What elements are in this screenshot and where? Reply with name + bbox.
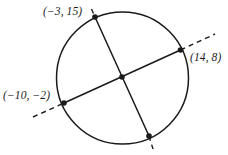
point-marker-bottom <box>146 133 152 139</box>
point-label-top-left: (−3, 15) <box>43 6 82 18</box>
circle-chords-figure: (−3, 15) (14, 8) (−10, −2) <box>0 0 228 155</box>
point-label-right: (14, 8) <box>190 52 221 64</box>
point-marker-top-left <box>92 14 98 20</box>
chord-left-to-right-dash-upper <box>181 34 216 50</box>
chord-left-to-right-dash-lower <box>33 103 64 117</box>
point-marker-left <box>61 100 67 106</box>
point-marker-right <box>178 47 184 53</box>
point-label-left: (−10, −2) <box>3 90 50 102</box>
point-marker-intersection <box>119 74 125 80</box>
figure-canvas <box>0 0 228 155</box>
